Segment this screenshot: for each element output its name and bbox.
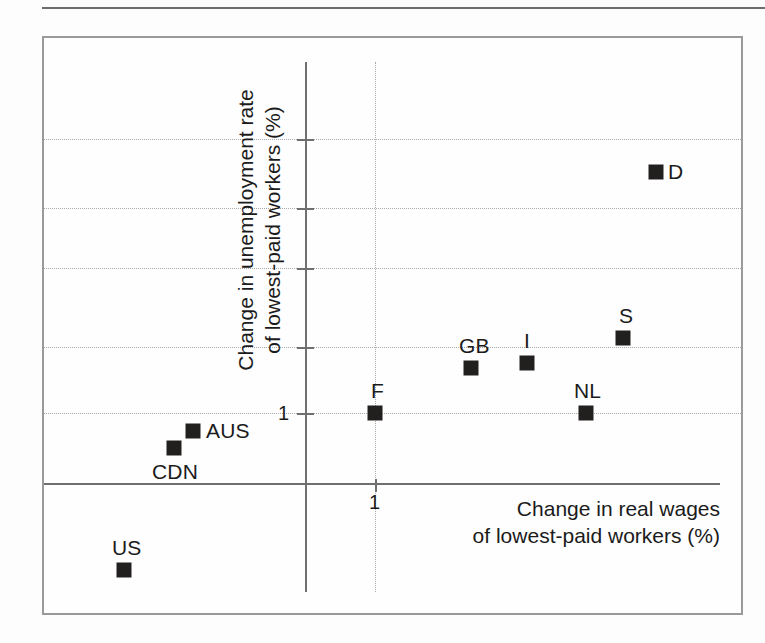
data-point-label-i: I — [524, 329, 530, 353]
gridline-horizontal-2 — [44, 268, 741, 269]
x-axis-line — [44, 483, 720, 485]
data-point-label-nl: NL — [574, 379, 601, 403]
y-tick-label-1: 1 — [278, 402, 289, 425]
figure-page: 1 1 DSIGBNLFAUSCDNUS Change in real wage… — [0, 0, 765, 643]
gridline-horizontal-4 — [44, 413, 741, 414]
y-tick-3 — [297, 347, 314, 349]
data-point-d[interactable] — [649, 165, 664, 180]
data-point-label-gb: GB — [459, 334, 490, 358]
data-point-label-aus: AUS — [206, 419, 250, 443]
data-point-f[interactable] — [368, 406, 383, 421]
data-point-gb[interactable] — [464, 361, 479, 376]
y-tick-2 — [297, 268, 314, 270]
data-point-nl[interactable] — [579, 406, 594, 421]
data-point-cdn[interactable] — [167, 441, 182, 456]
data-point-s[interactable] — [616, 331, 631, 346]
y-axis-title: Change in unemployment rate of lowest-pa… — [232, 65, 286, 395]
data-point-i[interactable] — [520, 356, 535, 371]
y-tick-4 — [297, 413, 314, 415]
data-point-label-cdn: CDN — [152, 460, 198, 484]
data-point-aus[interactable] — [186, 424, 201, 439]
y-tick-0 — [297, 139, 314, 141]
data-point-label-us: US — [112, 536, 142, 560]
x-axis-title: Change in real wages of lowest-paid work… — [428, 495, 720, 549]
data-point-label-d: D — [668, 160, 683, 184]
data-point-label-f: F — [371, 379, 384, 403]
gridline-horizontal-0 — [44, 139, 741, 140]
data-point-label-s: S — [619, 304, 633, 328]
y-axis-line — [305, 62, 307, 592]
data-point-us[interactable] — [117, 563, 132, 578]
gridline-horizontal-3 — [44, 347, 741, 348]
y-tick-1 — [297, 208, 314, 210]
gridline-horizontal-1 — [44, 208, 741, 209]
x-tick-label-1: 1 — [369, 491, 380, 514]
scatter-plot: 1 1 DSIGBNLFAUSCDNUS Change in real wage… — [0, 0, 765, 643]
